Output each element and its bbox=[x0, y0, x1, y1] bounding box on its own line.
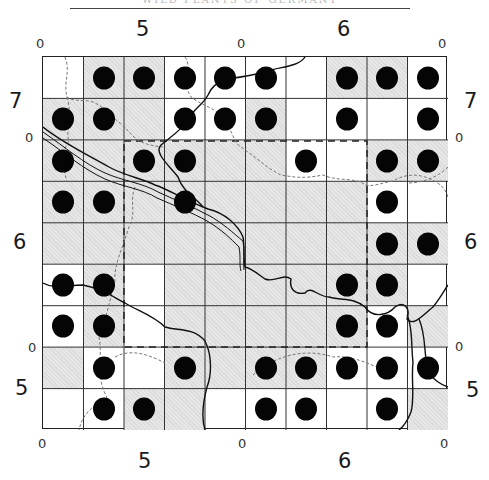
axis-label-left: 0 bbox=[28, 341, 36, 354]
axis-label-bottom: 5 bbox=[138, 451, 151, 472]
occurrence-dot-icon bbox=[336, 66, 358, 89]
axis-label-right: 5 bbox=[466, 380, 479, 401]
occurrence-dot-icon bbox=[174, 191, 196, 214]
occurrence-dot-icon bbox=[52, 108, 74, 131]
occurrence-dot-icon bbox=[376, 398, 398, 421]
occurrence-dot-icon bbox=[336, 273, 358, 296]
occurrence-dot-icon bbox=[295, 356, 317, 379]
map-title-rule bbox=[70, 8, 410, 9]
occurrence-dot-icon bbox=[336, 108, 358, 131]
occurrence-dot-icon bbox=[93, 273, 115, 296]
axis-label-left: 5 bbox=[15, 378, 28, 399]
occurrence-dot-icon bbox=[255, 398, 277, 421]
occurrence-dot-icon bbox=[52, 273, 74, 296]
occurrence-dot-icon bbox=[417, 108, 439, 131]
occurrence-dot-icon bbox=[214, 66, 236, 89]
occurrence-dot-icon bbox=[52, 149, 74, 172]
occurrence-dot-icon bbox=[93, 315, 115, 338]
occurrence-dot-icon bbox=[255, 356, 277, 379]
occurrence-dot-icon bbox=[417, 232, 439, 255]
axis-label-bottom: 0 bbox=[38, 437, 46, 450]
occurrence-dot-icon bbox=[93, 356, 115, 379]
axis-label-top: 0 bbox=[438, 37, 446, 50]
axis-label-right: 7 bbox=[464, 91, 477, 112]
axis-label-left: 6 bbox=[13, 232, 26, 253]
occurrence-dot-icon bbox=[417, 149, 439, 172]
occurrence-dot-icon bbox=[376, 149, 398, 172]
occurrence-dot-icon bbox=[255, 108, 277, 131]
occurrence-dot-icon bbox=[93, 191, 115, 214]
occurrence-dot-icon bbox=[336, 356, 358, 379]
occurrence-dot-icon bbox=[52, 315, 74, 338]
axis-label-right: 0 bbox=[455, 131, 463, 144]
occurrence-dot-icon bbox=[295, 149, 317, 172]
occurrence-dot-icon bbox=[417, 66, 439, 89]
axis-label-top: 6 bbox=[337, 19, 350, 40]
axis-label-bottom: 0 bbox=[440, 437, 448, 450]
axis-label-left: 0 bbox=[25, 131, 33, 144]
occurrence-dot-icon bbox=[295, 398, 317, 421]
occurrence-dot-icon bbox=[133, 149, 155, 172]
occurrence-dot-icon bbox=[255, 66, 277, 89]
occurrence-dot-icon bbox=[93, 108, 115, 131]
occurrence-dot-icon bbox=[376, 315, 398, 338]
occurrence-dot-icon bbox=[174, 149, 196, 172]
occurrence-dot-icon bbox=[376, 191, 398, 214]
axis-label-top: 0 bbox=[36, 37, 44, 50]
axis-label-right: 0 bbox=[455, 340, 463, 353]
occurrence-dot-icon bbox=[376, 66, 398, 89]
occurrence-dot-icon bbox=[133, 398, 155, 421]
occurrence-dot-icon bbox=[52, 191, 74, 214]
occurrence-dot-icon bbox=[174, 108, 196, 131]
axis-label-left: 7 bbox=[9, 91, 22, 112]
occurrence-dot-icon bbox=[174, 66, 196, 89]
occurrence-dot-icon bbox=[376, 356, 398, 379]
map-title: WILD PLANTS OF GERMANY bbox=[70, 0, 410, 5]
occurrence-dot-icon bbox=[214, 108, 236, 131]
occurrence-dot-icon bbox=[133, 66, 155, 89]
occurrence-dot-icon bbox=[93, 66, 115, 89]
occurrence-dot-icon bbox=[93, 398, 115, 421]
occurrence-dot-icon bbox=[376, 232, 398, 255]
distribution-grid bbox=[42, 56, 447, 429]
axis-label-top: 0 bbox=[237, 37, 245, 50]
axis-label-right: 6 bbox=[464, 232, 477, 253]
axis-label-bottom: 6 bbox=[338, 451, 351, 472]
occurrence-dot-icon bbox=[336, 315, 358, 338]
occurrence-dot-icon bbox=[417, 356, 439, 379]
occurrence-dot-icon bbox=[376, 273, 398, 296]
axis-label-top: 5 bbox=[136, 19, 149, 40]
occurrence-dot-icon bbox=[174, 356, 196, 379]
axis-label-bottom: 0 bbox=[238, 437, 246, 450]
